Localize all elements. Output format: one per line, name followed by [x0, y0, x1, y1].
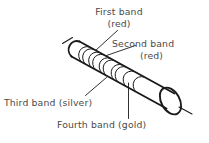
label-first-band-line2: (red)	[72, 18, 166, 30]
label-fourth-band-line1: Fourth band (gold)	[57, 119, 146, 131]
label-third-band: Third band (silver)	[4, 97, 92, 109]
label-second-band-line1: Second band	[112, 38, 209, 50]
label-second-band-line2: (red)	[112, 50, 209, 62]
figure-canvas: First band (red) Second band (red) Third…	[0, 0, 209, 143]
label-third-band-line1: Third band (silver)	[4, 97, 92, 109]
label-fourth-band: Fourth band (gold)	[57, 119, 146, 131]
label-first-band: First band (red)	[72, 6, 166, 29]
label-first-band-line1: First band	[72, 6, 166, 18]
label-second-band: Second band (red)	[112, 38, 209, 61]
